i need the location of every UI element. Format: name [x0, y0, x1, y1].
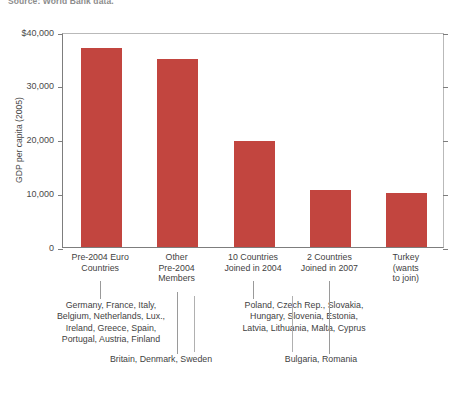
annotation-divider-1 — [292, 296, 293, 352]
annotation-line: Latvia, Lithuania, Malta, Cyprus — [196, 323, 412, 334]
annotation-area: Germany, France, Italy,Belgium, Netherla… — [0, 296, 458, 393]
joined-2007-countries-list: Bulgaria, Romania — [228, 354, 414, 365]
gdp-per-capita-bar-chart: Source: World Bank data. GDP per capita … — [0, 0, 458, 393]
x-category-label-1: OtherPre-2004Members — [138, 252, 214, 284]
x-category-label-line: Other — [138, 252, 214, 263]
leader-line-category-1 — [177, 292, 178, 354]
y-tick-mark-right — [443, 249, 448, 250]
x-category-label-4: Turkey(wantsto join) — [368, 252, 444, 284]
y-tick-label: $40,000 — [21, 28, 54, 38]
x-category-label-line: Pre-2004 — [138, 263, 214, 274]
x-category-label-3: 2 CountriesJoined in 2007 — [291, 252, 367, 273]
leader-line-category-2 — [253, 281, 254, 299]
x-category-label-line: Turkey — [368, 252, 444, 263]
y-tick-label: 30,000 — [26, 81, 54, 91]
other-pre-2004-members-list: Britain, Denmark, Sweden — [68, 354, 254, 365]
annotation-line: Hungary, Slovenia, Estonia, — [196, 311, 412, 322]
leader-line-category-3 — [329, 281, 330, 354]
y-tick-label: 0 — [49, 243, 54, 253]
x-category-label-line: Members — [138, 273, 214, 284]
annotation-line: Bulgaria, Romania — [228, 354, 414, 365]
bar-0 — [81, 48, 122, 247]
y-tick-label: 20,000 — [26, 135, 54, 145]
y-tick-mark-right — [443, 195, 448, 196]
x-category-label-line: (wants — [368, 263, 444, 274]
bar-3 — [310, 190, 351, 248]
y-tick-mark-right — [443, 34, 448, 35]
annotation-line: Britain, Denmark, Sweden — [68, 354, 254, 365]
annotation-line: Poland, Czech Rep., Slovakia, — [196, 300, 412, 311]
x-category-label-line: 10 Countries — [215, 252, 291, 263]
y-axis-title: GDP per capita (2005) — [14, 45, 24, 235]
x-category-label-line: Pre-2004 Euro — [62, 252, 138, 263]
leader-line-category-0 — [100, 281, 101, 299]
bar-4 — [386, 193, 427, 247]
x-category-label-line: to join) — [368, 273, 444, 284]
x-category-label-line: Joined in 2007 — [291, 263, 367, 274]
joined-2004-countries-list: Poland, Czech Rep., Slovakia,Hungary, Sl… — [196, 300, 412, 334]
source-note: Source: World Bank data. — [8, 0, 114, 6]
y-tick-mark-right — [443, 87, 448, 88]
annotation-divider-0 — [194, 296, 195, 352]
x-category-label-line: Joined in 2004 — [215, 263, 291, 274]
y-tick-label: 10,000 — [26, 189, 54, 199]
x-category-label-line: 2 Countries — [291, 252, 367, 263]
y-tick-mark-right — [443, 141, 448, 142]
bar-series — [63, 34, 443, 247]
x-category-label-2: 10 CountriesJoined in 2004 — [215, 252, 291, 273]
plot-inner: $40,00030,00020,00010,0000 — [63, 34, 443, 247]
bar-2 — [234, 141, 275, 247]
x-category-label-0: Pre-2004 EuroCountries — [62, 252, 138, 273]
plot-area: $40,00030,00020,00010,0000 — [62, 33, 444, 248]
x-category-label-line: Countries — [62, 263, 138, 274]
y-tick-mark-left — [58, 249, 63, 250]
bar-1 — [157, 59, 198, 247]
